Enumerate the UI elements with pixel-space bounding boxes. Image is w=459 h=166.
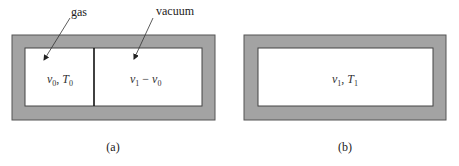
panel-a-caption: (a)	[106, 140, 119, 154]
vacuum-label: vacuum	[156, 4, 195, 18]
panel-a: gas vacuum v0, T0 v1 − v0 (a)	[12, 4, 215, 154]
panel-b: v1, T1 (b)	[244, 35, 446, 154]
diagram-canvas: gas vacuum v0, T0 v1 − v0 (a) v1, T1 (b)	[0, 0, 459, 166]
panel-b-caption: (b)	[338, 140, 352, 154]
gas-label: gas	[71, 5, 87, 19]
vacuum-volume-label: v1 − v0	[130, 72, 161, 88]
